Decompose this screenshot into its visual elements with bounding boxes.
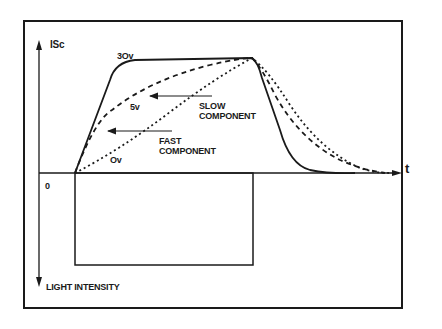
light-pulse [75, 173, 253, 265]
curve-label-30v: 3Ov [117, 51, 133, 61]
fast-component-label-2: COMPONENT [159, 146, 216, 156]
y-axis-arrow-up-icon [36, 40, 42, 50]
fast-component-label-1: FAST [159, 136, 181, 146]
curve-label-5v: 5v [130, 102, 140, 112]
light-intensity-label: LIGHT INTENSITY [46, 282, 120, 292]
slow-component-label-2: COMPONENT [199, 111, 256, 121]
y-axis-label: ISc [50, 40, 64, 50]
x-axis-arrow-icon [392, 170, 402, 176]
origin-label: 0 [45, 181, 50, 191]
x-axis-label: t [405, 164, 409, 174]
photocurrent-diagram [0, 0, 442, 329]
slow-component-label-1: SLOW [199, 101, 225, 111]
curve-label-0v: Ov [110, 155, 122, 165]
y-axis-arrow-down-icon [36, 277, 42, 287]
